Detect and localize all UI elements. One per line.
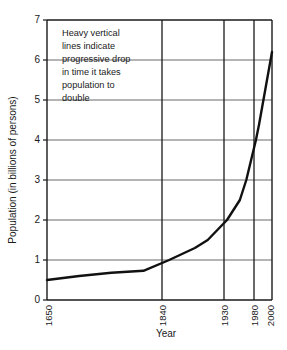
xtick-label-1840: 1840	[157, 305, 168, 326]
x-axis-title: Year	[156, 328, 177, 339]
ytick-label-3: 3	[34, 174, 40, 185]
ytick-label-4: 4	[34, 134, 40, 145]
xtick-label-1980: 1980	[249, 305, 260, 326]
ytick-label-2: 2	[34, 214, 40, 225]
annotation-line-2: lines indicate	[62, 41, 115, 51]
annotation-line-5: population to	[62, 80, 115, 90]
doubling-time-note: Heavy vertical lines indicate progressiv…	[62, 28, 130, 103]
population-growth-chart: 7 6 5 4 3 2 1 0 1650 1840 1930 1980 2000…	[0, 0, 287, 350]
y-axis-tick-labels: 7 6 5 4 3 2 1 0	[34, 14, 40, 305]
ytick-label-6: 6	[34, 54, 40, 65]
ytick-label-0: 0	[34, 294, 40, 305]
ytick-label-7: 7	[34, 14, 40, 25]
axis-titles: Population (in billions of persons) Year	[7, 96, 177, 339]
annotation-line-3: progressive drop	[62, 54, 130, 64]
horizontal-gridlines	[47, 60, 272, 260]
annotation-line-4: in time it takes	[62, 67, 121, 77]
chart-canvas: 7 6 5 4 3 2 1 0 1650 1840 1930 1980 2000…	[0, 0, 287, 350]
x-axis-tick-labels: 1650 1840 1930 1980 2000	[43, 305, 276, 326]
xtick-label-1650: 1650	[43, 305, 54, 326]
ytick-label-1: 1	[34, 254, 40, 265]
xtick-label-2000: 2000	[265, 305, 276, 326]
annotation-line-1: Heavy vertical	[62, 28, 120, 38]
xtick-label-1930: 1930	[219, 305, 230, 326]
annotation-line-6: double	[62, 93, 90, 103]
y-axis-title: Population (in billions of persons)	[7, 96, 18, 243]
ytick-label-5: 5	[34, 94, 40, 105]
